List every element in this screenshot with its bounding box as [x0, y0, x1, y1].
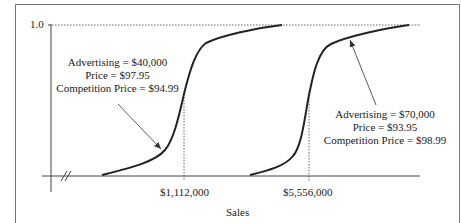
annotation-arrow-2 [350, 40, 376, 105]
annotation-left-price: Price = $97.95 [55, 69, 180, 82]
s-curve-2 [250, 25, 409, 175]
annotation-right-advertising: Advertising = $70,000 [320, 108, 450, 121]
annotation-arrow-1 [118, 104, 161, 149]
x-tick-label-1: $1,112,000 [160, 186, 209, 199]
annotation-left-advertising: Advertising = $40,000 [55, 56, 180, 69]
x-axis-title: Sales [226, 206, 249, 219]
annotation-right: Advertising = $70,000 Price = $93.95 Com… [320, 108, 450, 147]
s-curve-1 [102, 25, 282, 175]
annotation-right-price: Price = $93.95 [320, 121, 450, 134]
annotation-left-competition: Competition Price = $94.99 [55, 82, 180, 95]
annotation-right-competition: Competition Price = $98.99 [320, 134, 450, 147]
y-tick-label-max: 1.0 [30, 18, 44, 31]
annotation-left: Advertising = $40,000 Price = $97.95 Com… [55, 56, 180, 95]
x-tick-label-2: $5,556,000 [283, 186, 333, 199]
